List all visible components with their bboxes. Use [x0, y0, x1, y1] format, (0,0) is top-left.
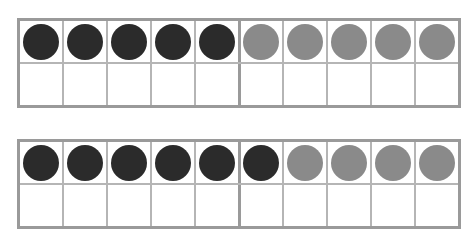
- ten-frame-cell[interactable]: [196, 185, 241, 226]
- empty-cell-icon: [155, 67, 191, 103]
- ten-frame-1[interactable]: [17, 18, 461, 108]
- light-counter-icon: [331, 24, 367, 60]
- light-counter-icon: [287, 145, 323, 181]
- empty-cell-icon: [419, 67, 455, 103]
- ten-frame-cell[interactable]: [196, 142, 241, 183]
- empty-cell-icon: [111, 67, 147, 103]
- light-counter-icon: [375, 24, 411, 60]
- light-counter-icon: [375, 145, 411, 181]
- ten-frame-2[interactable]: [17, 139, 461, 229]
- ten-frame-cell[interactable]: [20, 21, 64, 62]
- ten-frame-cell[interactable]: [152, 142, 196, 183]
- empty-cell-icon: [375, 188, 411, 224]
- ten-frame-cell[interactable]: [284, 64, 328, 105]
- empty-cell-icon: [243, 188, 279, 224]
- ten-frame-cell[interactable]: [241, 142, 285, 183]
- empty-cell-icon: [331, 67, 367, 103]
- ten-frame-row: [20, 185, 458, 226]
- light-counter-icon: [419, 24, 455, 60]
- ten-frame-cell[interactable]: [152, 64, 196, 105]
- dark-counter-icon: [23, 24, 59, 60]
- empty-cell-icon: [67, 67, 103, 103]
- ten-frame-cell[interactable]: [372, 64, 416, 105]
- ten-frame-cell[interactable]: [196, 64, 241, 105]
- ten-frame-cell[interactable]: [152, 21, 196, 62]
- light-counter-icon: [331, 145, 367, 181]
- empty-cell-icon: [199, 67, 235, 103]
- empty-cell-icon: [199, 188, 235, 224]
- ten-frame-cell[interactable]: [328, 21, 372, 62]
- empty-cell-icon: [375, 67, 411, 103]
- ten-frames-canvas: [0, 0, 475, 237]
- ten-frame-cell[interactable]: [372, 142, 416, 183]
- ten-frame-cell[interactable]: [416, 185, 458, 226]
- ten-frame-cell[interactable]: [64, 142, 108, 183]
- ten-frame-cell[interactable]: [64, 185, 108, 226]
- empty-cell-icon: [419, 188, 455, 224]
- ten-frame-cell[interactable]: [284, 142, 328, 183]
- empty-cell-icon: [331, 188, 367, 224]
- light-counter-icon: [419, 145, 455, 181]
- empty-cell-icon: [111, 188, 147, 224]
- ten-frame-cell[interactable]: [284, 21, 328, 62]
- dark-counter-icon: [199, 145, 235, 181]
- ten-frame-cell[interactable]: [20, 64, 64, 105]
- empty-cell-icon: [23, 67, 59, 103]
- empty-cell-icon: [287, 188, 323, 224]
- ten-frame-cell[interactable]: [20, 142, 64, 183]
- dark-counter-icon: [111, 24, 147, 60]
- ten-frame-row: [20, 21, 458, 64]
- ten-frame-cell[interactable]: [64, 21, 108, 62]
- dark-counter-icon: [243, 145, 279, 181]
- empty-cell-icon: [67, 188, 103, 224]
- light-counter-icon: [243, 24, 279, 60]
- ten-frame-row: [20, 142, 458, 185]
- light-counter-icon: [287, 24, 323, 60]
- empty-cell-icon: [287, 67, 323, 103]
- ten-frame-cell[interactable]: [416, 64, 458, 105]
- ten-frame-cell[interactable]: [241, 21, 285, 62]
- ten-frame-cell[interactable]: [108, 64, 152, 105]
- ten-frame-cell[interactable]: [64, 64, 108, 105]
- ten-frame-row: [20, 64, 458, 105]
- ten-frame-cell[interactable]: [108, 21, 152, 62]
- ten-frame-cell[interactable]: [108, 185, 152, 226]
- ten-frame-cell[interactable]: [196, 21, 241, 62]
- dark-counter-icon: [67, 24, 103, 60]
- dark-counter-icon: [199, 24, 235, 60]
- dark-counter-icon: [111, 145, 147, 181]
- ten-frame-cell[interactable]: [372, 21, 416, 62]
- empty-cell-icon: [243, 67, 279, 103]
- ten-frame-cell[interactable]: [416, 142, 458, 183]
- ten-frame-cell[interactable]: [241, 64, 285, 105]
- ten-frame-cell[interactable]: [241, 185, 285, 226]
- dark-counter-icon: [23, 145, 59, 181]
- ten-frame-cell[interactable]: [416, 21, 458, 62]
- ten-frame-cell[interactable]: [20, 185, 64, 226]
- dark-counter-icon: [67, 145, 103, 181]
- dark-counter-icon: [155, 24, 191, 60]
- ten-frame-cell[interactable]: [328, 142, 372, 183]
- ten-frame-cell[interactable]: [328, 185, 372, 226]
- empty-cell-icon: [23, 188, 59, 224]
- ten-frame-cell[interactable]: [284, 185, 328, 226]
- ten-frame-cell[interactable]: [152, 185, 196, 226]
- ten-frame-cell[interactable]: [108, 142, 152, 183]
- empty-cell-icon: [155, 188, 191, 224]
- ten-frame-cell[interactable]: [328, 64, 372, 105]
- ten-frame-cell[interactable]: [372, 185, 416, 226]
- dark-counter-icon: [155, 145, 191, 181]
